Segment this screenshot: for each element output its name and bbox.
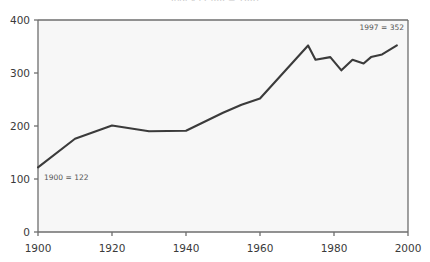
x-tick-label: 1920 bbox=[99, 242, 126, 254]
chart-container: Index (1900 = 100) 0100200300400 1900192… bbox=[0, 0, 430, 262]
x-tick-label: 1940 bbox=[173, 242, 200, 254]
start-annotation: 1900 = 122 bbox=[44, 173, 89, 182]
y-tick-label: 400 bbox=[10, 14, 30, 26]
y-tick-label: 300 bbox=[10, 67, 30, 79]
x-tick-label: 2000 bbox=[395, 242, 422, 254]
y-tick-label: 200 bbox=[10, 120, 30, 132]
plot-background bbox=[38, 20, 408, 232]
x-tick-label: 1960 bbox=[247, 242, 274, 254]
x-tick-label: 1980 bbox=[321, 242, 348, 254]
line-chart-svg: 0100200300400 190019201940196019802000 1… bbox=[0, 0, 430, 262]
x-tick-label: 1900 bbox=[25, 242, 52, 254]
y-tick-label: 100 bbox=[10, 173, 30, 185]
y-tick-label: 0 bbox=[23, 226, 30, 238]
y-axis-ticks: 0100200300400 bbox=[10, 14, 38, 238]
end-annotation: 1997 = 352 bbox=[360, 23, 405, 32]
x-axis-ticks: 190019201940196019802000 bbox=[25, 232, 422, 254]
